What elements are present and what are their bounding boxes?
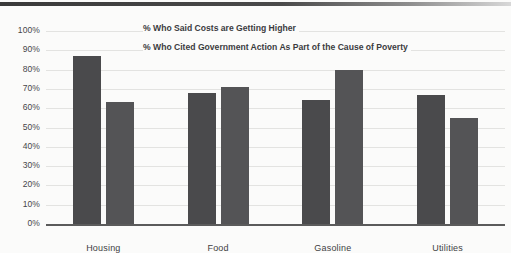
bar (302, 100, 330, 224)
bar (450, 118, 478, 224)
bar (188, 93, 216, 224)
y-axis-tick-label: 0% (0, 218, 40, 228)
chart-legend: % Who Said Costs are Getting Higher % Wh… (143, 17, 473, 54)
x-axis-category-label: Housing (46, 243, 161, 253)
bar-chart-figure: 100%90%80%70%60%50%40%30%20%10%0% % Who … (0, 0, 511, 253)
bar (335, 70, 363, 224)
y-axis-tick-label: 10% (0, 199, 40, 209)
legend-entry-series-1: % Who Cited Government Action As Part of… (143, 41, 411, 55)
y-axis-tick-label: 70% (0, 83, 40, 93)
bar (417, 95, 445, 224)
y-axis-tick-label: 30% (0, 160, 40, 170)
top-divider-rule (0, 2, 511, 6)
legend-entry-series-0: % Who Said Costs are Getting Higher (143, 22, 299, 36)
y-axis-tick-label: 20% (0, 179, 40, 189)
y-axis-tick-label: 50% (0, 122, 40, 132)
y-axis-tick-label: 60% (0, 102, 40, 112)
x-axis-category-label: Utilities (390, 243, 505, 253)
bar (106, 102, 134, 224)
y-axis-tick-label: 90% (0, 44, 40, 54)
bar (221, 87, 249, 224)
y-axis-tick-label: 40% (0, 141, 40, 151)
x-axis-category-label: Gasoline (276, 243, 391, 253)
bar-group (73, 14, 134, 239)
bar (73, 56, 101, 224)
x-axis-labels: HousingFoodGasolineUtilities (46, 243, 505, 253)
y-axis-tick-label: 80% (0, 64, 40, 74)
y-axis-tick-label: 100% (0, 25, 40, 35)
x-axis-category-label: Food (161, 243, 276, 253)
